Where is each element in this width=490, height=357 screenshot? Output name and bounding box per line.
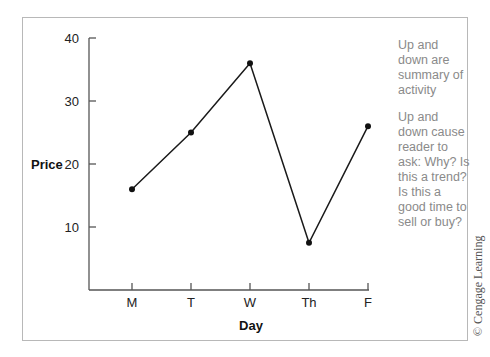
data-point-f	[365, 123, 371, 129]
series-price	[129, 60, 371, 246]
y-ticks: 10203040	[65, 31, 96, 235]
y-tick-label: 10	[65, 220, 79, 235]
data-point-w	[247, 60, 253, 66]
y-tick-label: 40	[65, 31, 79, 46]
annotation-summary: Up and down are summary of activity	[398, 38, 470, 98]
data-point-m	[129, 186, 135, 192]
series-line	[132, 63, 368, 243]
axes	[89, 38, 369, 290]
x-tick-label: T	[187, 295, 195, 310]
x-tick-label: W	[244, 295, 257, 310]
x-tick-label: Th	[301, 295, 316, 310]
y-tick-label: 30	[65, 94, 79, 109]
copyright-notice: © Cengage Learning	[471, 236, 486, 336]
x-tick-label: F	[364, 295, 372, 310]
data-point-th	[306, 240, 312, 246]
x-tick-label: M	[127, 295, 138, 310]
x-axis-title: Day	[239, 318, 264, 333]
data-point-t	[188, 130, 194, 136]
x-ticks: MTWThF	[127, 283, 372, 310]
annotation-questions: Up and down cause reader to ask: Why? Is…	[398, 110, 470, 230]
y-axis-title: Price	[31, 157, 63, 172]
y-tick-label: 20	[65, 157, 79, 172]
